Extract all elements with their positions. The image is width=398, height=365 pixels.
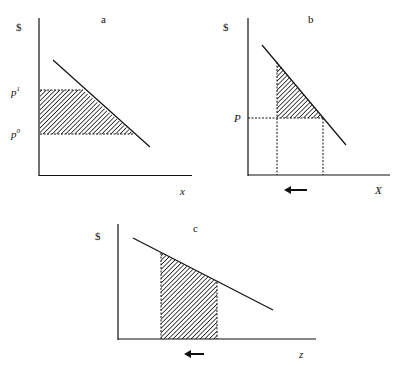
- panel-title-c: c: [193, 222, 198, 234]
- y-axis-label-a: $: [16, 21, 22, 33]
- y-axis-label-c: $: [95, 230, 101, 242]
- price-label-p0: p0: [10, 127, 21, 140]
- panel-title-b: b: [308, 13, 314, 25]
- figure: $ a x p1 p0 $ b X P $ c z: [0, 0, 398, 365]
- demand-curve-b: [262, 45, 346, 145]
- price-label-p: P: [233, 112, 241, 124]
- panel-b: $ b X P: [223, 13, 390, 196]
- shaded-area-a: [40, 90, 134, 134]
- left-arrow-icon: [184, 350, 204, 358]
- x-axis-label-a: x: [179, 185, 185, 197]
- y-axis-label-b: $: [223, 21, 229, 33]
- shaded-area-c: [161, 253, 217, 339]
- x-axis-label-c: z: [298, 348, 304, 360]
- panel-title-a: a: [101, 13, 106, 25]
- panel-c: $ c z: [95, 222, 316, 360]
- panel-a: $ a x p1 p0: [10, 13, 192, 197]
- price-label-p1: p1: [10, 85, 20, 98]
- x-axis-label-b: X: [374, 184, 383, 196]
- left-arrow-icon: [284, 186, 307, 194]
